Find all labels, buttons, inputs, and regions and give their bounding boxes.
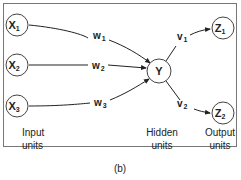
output-layer-label-line1: Output: [205, 127, 235, 138]
hidden-layer-label-line2: units: [151, 140, 172, 151]
network-diagram: X1 X2 X3 Y Z1 Z2 w1 w2 w3 v1 v2 Input un…: [0, 0, 241, 180]
hidden-layer-label-line1: Hidden: [146, 127, 178, 138]
input-layer-label-line2: units: [22, 140, 43, 151]
figure-caption: (b): [114, 163, 126, 174]
diagram-frame: [4, 4, 237, 147]
output-layer-label-line2: units: [209, 140, 230, 151]
input-layer-label-line1: Input: [22, 127, 44, 138]
node-y-label: Y: [155, 65, 163, 77]
